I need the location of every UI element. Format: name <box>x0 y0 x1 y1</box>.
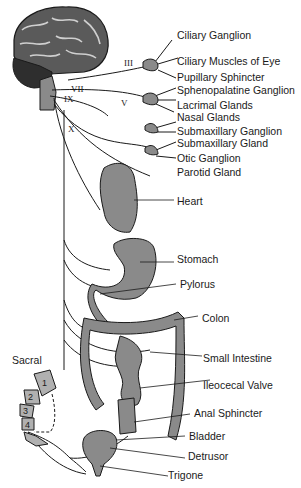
nerve-label-x: X <box>68 124 75 134</box>
label-ciliary-ganglion: Ciliary Ganglion <box>177 29 251 41</box>
label-small-intestine: Small Intestine <box>203 352 272 364</box>
rectum-illustration <box>118 398 136 434</box>
label-ileocecal-valve: Ileocecal Valve <box>203 379 273 391</box>
nerve-label-iii: III <box>124 58 133 68</box>
label-anal-sphincter: Anal Sphincter <box>194 407 262 419</box>
label-bladder: Bladder <box>189 430 225 442</box>
brain-illustration <box>13 7 108 110</box>
label-colon: Colon <box>202 312 229 324</box>
svg-text:4: 4 <box>25 420 30 430</box>
label-parotid-gland: Parotid Gland <box>177 166 241 178</box>
label-pupillary-sphincter: Pupillary Sphincter <box>177 71 265 83</box>
label-lacrimal-glands: Lacrimal Glands <box>177 99 253 111</box>
label-sacral: Sacral <box>12 354 42 366</box>
nerve-label-v: V <box>121 98 128 108</box>
label-stomach: Stomach <box>177 253 218 265</box>
svg-text:1: 1 <box>42 378 47 388</box>
label-trigone: Trigone <box>168 469 203 481</box>
sacrum-illustration: 1 2 3 4 <box>20 370 56 446</box>
svg-text:2: 2 <box>28 392 33 402</box>
label-submaxillary-gland: Submaxillary Gland <box>177 137 268 149</box>
small-intestine-illustration <box>115 336 141 406</box>
label-pylorus: Pylorus <box>180 278 215 290</box>
bladder-illustration <box>83 431 117 477</box>
label-submaxillary-ganglion: Submaxillary Ganglion <box>177 125 282 137</box>
svg-text:3: 3 <box>23 406 28 416</box>
label-sphenopalatine-ganglion: Sphenopalatine Ganglion <box>177 84 295 96</box>
nerve-label-vii: VII <box>71 84 84 94</box>
label-nasal-glands: Nasal Glands <box>177 111 240 123</box>
ganglia <box>143 59 158 155</box>
heart-illustration <box>100 163 137 232</box>
label-otic-ganglion: Otic Ganglion <box>177 152 241 164</box>
label-ciliary-muscles: Ciliary Muscles of Eye <box>177 55 280 67</box>
label-detrusor: Detrusor <box>188 450 228 462</box>
label-heart: Heart <box>177 195 203 207</box>
nerve-label-ix: IX <box>64 94 74 104</box>
stomach-illustration <box>88 238 156 326</box>
